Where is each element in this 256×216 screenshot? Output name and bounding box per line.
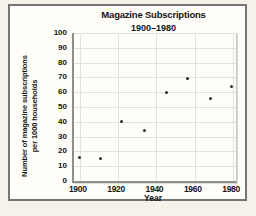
v-gridline <box>118 33 119 181</box>
h-gridline <box>74 151 236 152</box>
y-tick-label: 80 <box>10 58 67 68</box>
y-tick-label: 70 <box>10 72 67 82</box>
y-tick-label: 30 <box>10 132 67 142</box>
chart-subtitle: 1900–1980 <box>66 23 241 33</box>
data-point <box>120 120 123 123</box>
h-gridline <box>74 77 236 78</box>
chart-title: Magazine Subscriptions <box>66 9 241 20</box>
data-point <box>230 85 233 88</box>
chart-panel: Magazine Subscriptions 1900–1980 Number … <box>8 4 247 201</box>
y-tick-label: 40 <box>10 117 67 127</box>
data-point <box>186 77 189 80</box>
h-gridline <box>74 137 236 138</box>
data-point <box>78 156 81 159</box>
h-gridline <box>74 63 236 64</box>
y-tick-label: 100 <box>10 28 67 38</box>
v-gridline <box>156 33 157 181</box>
plot-area <box>72 33 237 183</box>
y-tick-label: 50 <box>10 102 67 112</box>
x-axis-title: Year <box>72 194 234 203</box>
h-gridline <box>74 166 236 167</box>
v-gridline <box>195 33 196 181</box>
h-gridline <box>74 33 236 34</box>
x-tick-label: 1960 <box>176 184 210 194</box>
h-gridline <box>74 92 236 93</box>
h-gridline <box>74 48 236 49</box>
y-tick-label: 10 <box>10 161 67 171</box>
x-tick-label: 1920 <box>99 184 133 194</box>
x-tick-label: 1980 <box>214 184 248 194</box>
data-point <box>99 157 102 160</box>
data-point <box>165 91 168 94</box>
x-tick-label: 1900 <box>61 184 95 194</box>
h-gridline <box>74 107 236 108</box>
data-point <box>209 97 212 100</box>
y-tick-label: 20 <box>10 146 67 156</box>
y-tick-label: 90 <box>10 43 67 53</box>
data-point <box>143 129 146 132</box>
v-gridline <box>233 33 234 181</box>
y-tick-label: 0 <box>10 176 67 186</box>
y-tick-label: 60 <box>10 87 67 97</box>
h-gridline <box>74 122 236 123</box>
